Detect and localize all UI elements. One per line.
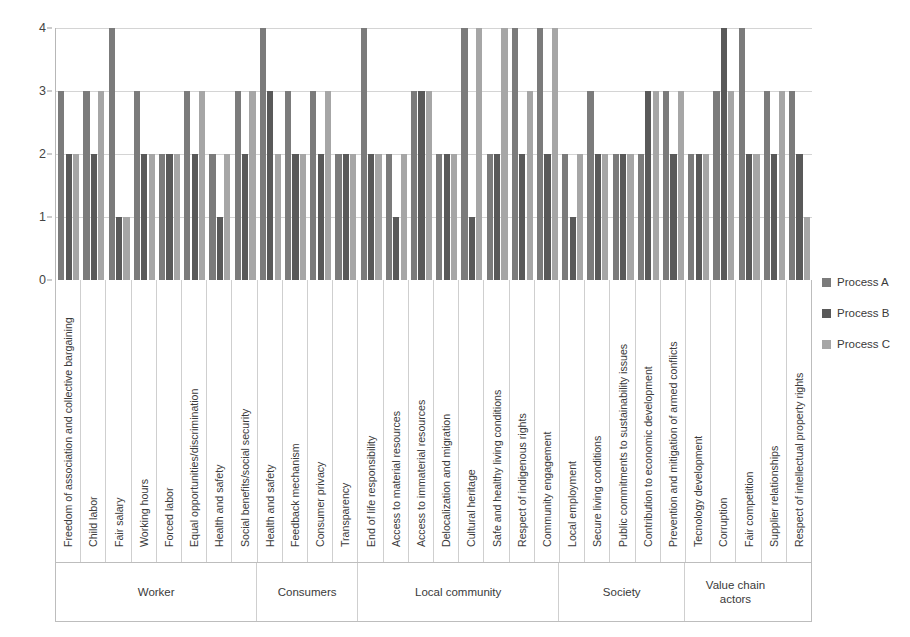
category-label: Local employment <box>567 461 578 547</box>
bar <box>796 154 802 280</box>
legend-swatch-icon <box>822 278 831 287</box>
category-label: Corruption <box>718 498 729 547</box>
bar-group <box>333 28 358 280</box>
category-label: Social benefits/social security <box>239 409 250 547</box>
bar <box>451 154 457 280</box>
bar <box>325 91 331 280</box>
y-tick-label: 4 <box>39 22 46 35</box>
bar <box>310 91 316 280</box>
category-label: Supplier relationships <box>768 446 779 547</box>
bar <box>267 91 273 280</box>
bar-group <box>81 28 106 280</box>
bar-group <box>409 28 434 280</box>
bar <box>537 28 543 280</box>
bar <box>300 154 306 280</box>
bar <box>58 91 64 280</box>
bar <box>552 28 558 280</box>
bar-group <box>686 28 711 280</box>
category-label: Cultural heritage <box>466 470 477 548</box>
category-label: Community engagement <box>542 432 553 547</box>
bar <box>519 154 525 280</box>
bar <box>721 28 727 280</box>
bar-group <box>56 28 81 280</box>
category-label-cell: Health and safety <box>258 280 283 562</box>
bar <box>764 91 770 280</box>
bar <box>249 91 255 280</box>
bar <box>587 91 593 280</box>
category-label: Safe and healthy living conditions <box>491 390 502 547</box>
category-label-cell: Secure living conditions <box>585 280 610 562</box>
category-label-cell: Fair salary <box>106 280 131 562</box>
bar <box>73 154 79 280</box>
bar <box>627 154 633 280</box>
bar <box>109 28 115 280</box>
bar <box>361 28 367 280</box>
legend-label: Process B <box>837 307 889 319</box>
bar <box>527 91 533 280</box>
category-label: Feedback mechanism <box>290 444 301 548</box>
y-axis: 01234 <box>22 14 52 266</box>
plot-area: 01234 Freedom of association and collect… <box>22 14 812 614</box>
bar-group <box>106 28 131 280</box>
bar-group <box>384 28 409 280</box>
bar-group <box>484 28 509 280</box>
bar <box>461 28 467 280</box>
category-label-cell: Forced labor <box>157 280 182 562</box>
bar <box>436 154 442 280</box>
bar <box>620 154 626 280</box>
category-label-cell: Access to immaterial resources <box>409 280 434 562</box>
bar-group <box>711 28 736 280</box>
bar <box>688 154 694 280</box>
bar <box>577 154 583 280</box>
bar <box>242 154 248 280</box>
bar-group <box>636 28 661 280</box>
bar <box>753 154 759 280</box>
bar <box>602 154 608 280</box>
category-label-cell: Corruption <box>711 280 736 562</box>
category-label: Tecnology development <box>693 436 704 547</box>
bar <box>476 28 482 280</box>
y-tick-mark <box>47 154 52 155</box>
category-label-cell: Fair competition <box>736 280 761 562</box>
y-tick-mark <box>47 91 52 92</box>
bar <box>318 154 324 280</box>
bar <box>159 154 165 280</box>
bar-group <box>132 28 157 280</box>
bar-group <box>258 28 283 280</box>
bar <box>343 154 349 280</box>
category-label-cell: Local employment <box>560 280 585 562</box>
bar <box>292 154 298 280</box>
legend-item: Process A <box>822 276 910 288</box>
bar-group <box>283 28 308 280</box>
category-label-cell: Contribution to economic development <box>636 280 661 562</box>
legend-item: Process B <box>822 307 910 319</box>
bar-group <box>560 28 585 280</box>
chart-legend: Process AProcess BProcess C <box>822 276 910 369</box>
bar <box>224 154 230 280</box>
bar <box>418 91 424 280</box>
category-label-cell: Transparency <box>333 280 358 562</box>
bar <box>739 28 745 280</box>
bar <box>149 154 155 280</box>
category-label: Fair competition <box>743 472 754 547</box>
bar <box>713 91 719 280</box>
legend-swatch-icon <box>822 340 831 349</box>
bar <box>91 154 97 280</box>
bar <box>494 154 500 280</box>
bar <box>771 154 777 280</box>
section-label: Worker <box>56 563 257 621</box>
category-label-cell: Freedom of association and collective ba… <box>56 280 81 562</box>
bar <box>789 91 795 280</box>
category-label-cell: Respect of intellectual property rights <box>787 280 811 562</box>
category-label: Access to immaterial resources <box>416 400 427 547</box>
category-label-cell: Respect of indigenous rights <box>510 280 535 562</box>
bar <box>335 154 341 280</box>
section-label: Local community <box>358 563 559 621</box>
category-label: Health and safety <box>214 465 225 547</box>
bar <box>83 91 89 280</box>
bar <box>217 217 223 280</box>
y-tick-mark <box>47 280 52 281</box>
bar <box>123 217 129 280</box>
bar <box>235 91 241 280</box>
bar <box>487 154 493 280</box>
